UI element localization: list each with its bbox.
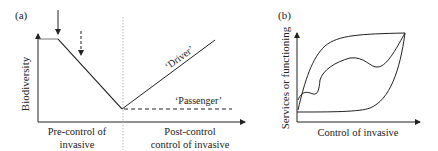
post-control-label-line1: Post-control [164,126,215,137]
pre-control-label-line1: Pre-control of [48,126,107,137]
lower-curve [297,33,405,112]
post-control-label-line2: control of invasive [151,139,230,150]
panel-a-label: (a) [15,9,28,22]
decline-segment [58,39,122,109]
panel-a: (a) Biodiversity ‘Driver’ ‘Passenger’ Pr… [15,9,245,150]
x-axis-label: Control of invasive [317,127,398,138]
figure: (a) Biodiversity ‘Driver’ ‘Passenger’ Pr… [0,0,438,151]
pre-control-label-line2: invasive [60,139,95,150]
y-axis-label: Biodiversity [19,56,31,111]
biodiversity-decline-line [39,39,122,109]
y-axis-label: Services or functioning [279,26,291,129]
upper-curve [298,33,405,110]
passenger-label: ‘Passenger’ [175,95,222,106]
panel-b-label: (b) [278,9,291,22]
panel-b: (b) Services or functioning Control of i… [278,9,420,138]
